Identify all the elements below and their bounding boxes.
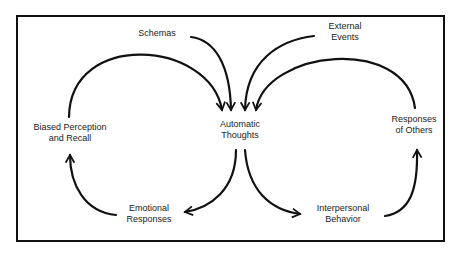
node-schemas-text: Schemas	[138, 28, 176, 39]
node-interpersonal-behavior: Interpersonal Behavior	[317, 203, 370, 225]
node-responses-of-others-line1: Responses	[391, 114, 436, 125]
arrow-others-to-thoughts	[256, 59, 415, 110]
arrow-thoughts-to-emotional	[185, 150, 236, 212]
node-automatic-thoughts: Automatic Thoughts	[220, 119, 260, 141]
node-emotional-responses-line2: Responses	[126, 214, 171, 225]
node-emotional-responses: Emotional Responses	[126, 203, 171, 225]
node-biased-perception: Biased Perception and Recall	[33, 122, 106, 144]
arrow-behavior-to-others	[385, 150, 417, 216]
node-automatic-thoughts-line1: Automatic	[220, 119, 260, 130]
node-biased-perception-line1: Biased Perception	[33, 122, 106, 133]
arrow-perception-to-thoughts	[69, 55, 222, 117]
node-biased-perception-line2: and Recall	[33, 133, 106, 144]
arrow-thoughts-to-behavior	[245, 150, 300, 214]
node-emotional-responses-line1: Emotional	[126, 203, 171, 214]
node-external-events-line2: Events	[328, 32, 361, 43]
node-automatic-thoughts-line2: Thoughts	[220, 130, 260, 141]
arrow-events-to-thoughts	[245, 36, 314, 110]
arrow-emotional-to-perception	[70, 155, 116, 215]
node-external-events: External Events	[328, 21, 361, 43]
node-schemas: Schemas	[138, 28, 176, 39]
node-interpersonal-behavior-line1: Interpersonal	[317, 203, 370, 214]
node-interpersonal-behavior-line2: Behavior	[317, 214, 370, 225]
node-external-events-line1: External	[328, 21, 361, 32]
arrow-schemas-to-thoughts	[191, 37, 231, 110]
node-responses-of-others-line2: of Others	[391, 125, 436, 136]
node-responses-of-others: Responses of Others	[391, 114, 436, 136]
